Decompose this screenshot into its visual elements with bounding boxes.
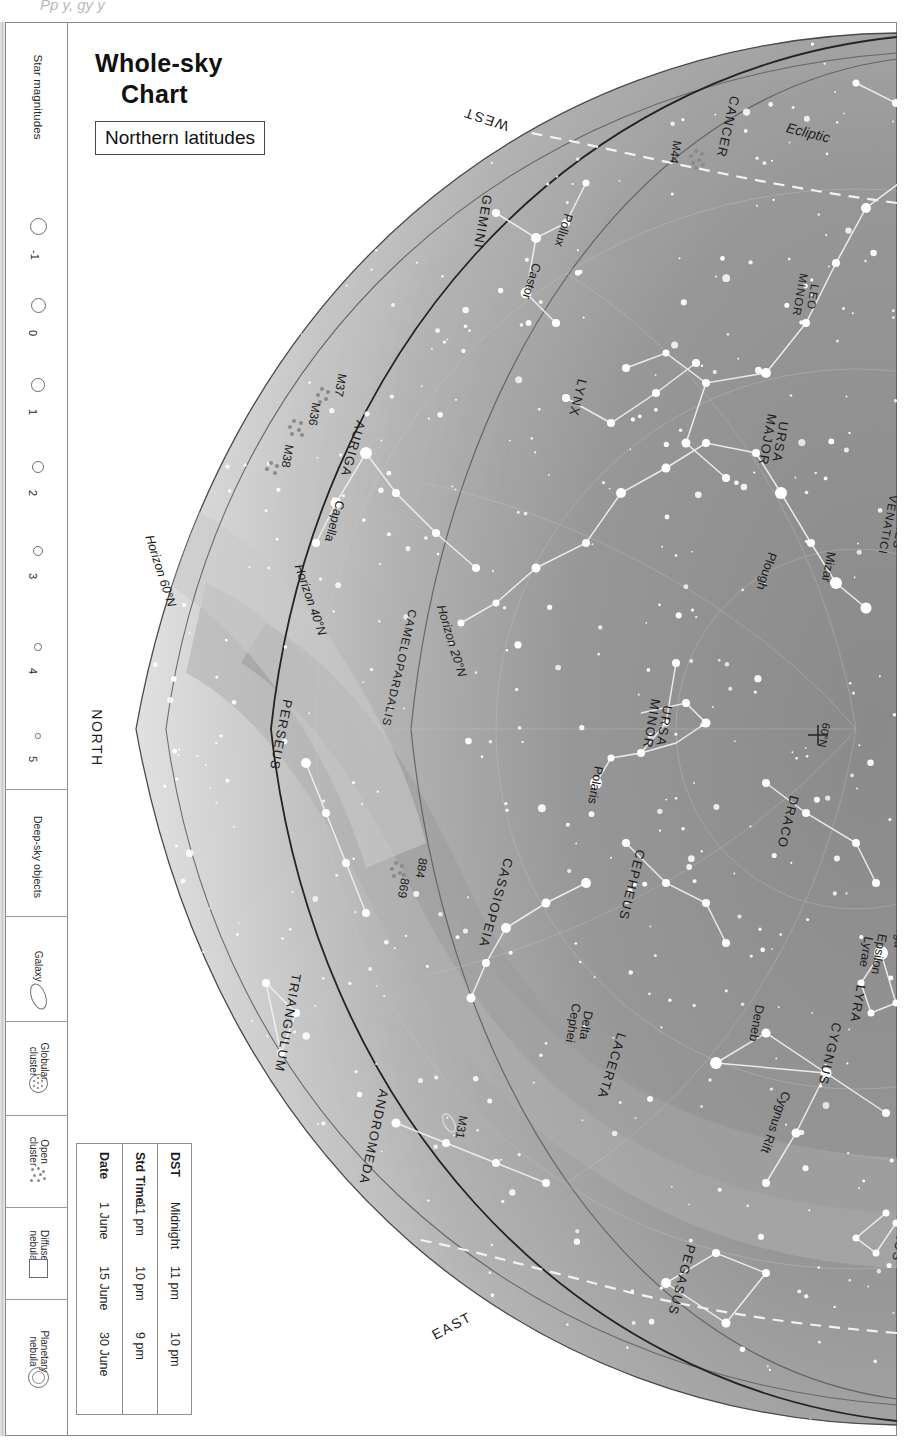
star [678,257,680,259]
star [722,939,730,947]
star [264,509,268,513]
star [853,80,860,87]
star [692,359,700,367]
star [702,379,710,387]
star [872,879,880,887]
star [701,365,704,368]
star [710,1057,722,1069]
star [847,1152,849,1154]
star [215,742,218,745]
star [475,671,478,674]
date-table-header-2: DST [168,1152,182,1177]
star [559,1366,563,1370]
star [163,785,166,788]
star [362,909,370,917]
star [209,787,211,789]
star [712,706,714,708]
star [539,300,543,304]
star [273,1102,275,1104]
star [807,539,815,547]
star [689,659,693,663]
star [442,1139,450,1147]
star [806,755,809,758]
star [654,954,657,957]
star [505,809,508,812]
star [689,1238,693,1242]
star [888,818,891,821]
star [225,639,228,642]
star [481,755,484,758]
star [818,213,821,216]
star [482,959,490,967]
star [748,260,752,264]
star [197,755,199,757]
star [526,320,532,326]
star [424,536,428,540]
star [823,1102,830,1109]
star [700,723,704,727]
star [413,891,419,897]
star [583,316,585,318]
star [792,106,795,109]
star [491,162,493,164]
star [846,1062,848,1064]
star [722,1319,731,1328]
star [660,1287,664,1291]
star [276,538,279,541]
star [232,700,237,705]
star [525,258,529,262]
star [834,91,836,93]
star [548,474,550,476]
star [832,259,840,267]
star [754,675,761,682]
star [387,1229,392,1234]
star [361,803,363,805]
date-table-cell: 9 pm [133,1332,147,1360]
star [472,564,480,572]
star [545,1042,548,1045]
star [692,1004,695,1007]
star [291,891,293,893]
star [342,859,350,867]
star [582,539,590,547]
star [797,1289,801,1293]
star [306,1189,310,1193]
star [603,1377,605,1379]
star [713,804,719,810]
legend-sidebar: Star magnitudes -1012345 Deep-sky object… [6,23,68,1435]
star [343,220,345,222]
star [691,551,693,553]
star [538,804,546,812]
star [434,1076,438,1080]
date-table-cell: 1 June [97,1202,111,1240]
star [387,532,391,536]
star [178,748,180,750]
deepsky-label-m44: M44 [667,139,684,164]
star [675,554,678,557]
star [314,1005,316,1007]
star [308,381,311,384]
star [524,512,528,516]
star [392,1119,401,1128]
star [665,515,670,520]
star [461,349,465,353]
star [664,442,669,447]
star [555,665,561,671]
legend-divider-6 [6,1299,68,1300]
star [594,976,596,978]
star [491,1293,495,1297]
star [814,472,817,475]
star [205,764,207,766]
star [760,947,765,952]
star [638,414,642,418]
star [189,632,191,634]
star [426,965,429,968]
magnitude-value-0: 0 [27,330,39,336]
star [849,682,852,685]
date-table-header-1: Std Time [133,1152,147,1205]
star [857,550,862,555]
star [368,967,372,971]
star [682,699,690,707]
star [533,1082,535,1084]
star [660,1026,662,1028]
